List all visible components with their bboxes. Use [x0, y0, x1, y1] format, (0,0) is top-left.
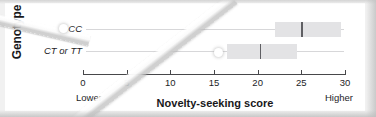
x-axis-tick-30 [345, 70, 346, 75]
scan-edge-shadow-top [0, 0, 376, 4]
x-axis-tick-label-5: 5 [114, 77, 140, 88]
x-axis-anchor-higher: Higher [325, 92, 353, 103]
x-axis-tick-label-10: 10 [157, 77, 183, 88]
x-axis-tick-label-20: 20 [245, 77, 271, 88]
x-axis-tick-20 [258, 70, 259, 75]
figure-screenshot: Genotype CC CT or TT 051015202530 Novelt… [0, 0, 376, 117]
scan-edge-shadow-bottom [0, 110, 376, 117]
x-axis-tick-label-30: 30 [332, 77, 358, 88]
x-axis-tick-5 [127, 70, 128, 75]
x-axis-anchor-lower: Lower [76, 92, 102, 103]
chart-plot-area: Genotype CC CT or TT 051015202530 Novelt… [0, 0, 376, 117]
x-axis-tick-label-0: 0 [70, 77, 96, 88]
scan-edge-shadow-right [366, 0, 376, 117]
y-axis-title: Genotype [10, 0, 24, 70]
interval-center-line-cc [301, 22, 302, 37]
x-axis-tick-label-15: 15 [201, 77, 227, 88]
x-axis-tick-10 [170, 70, 171, 75]
interval-bar-ct-or-tt [227, 44, 297, 59]
gridline-ct-or-tt [86, 51, 344, 52]
interval-bar-cc [275, 22, 341, 37]
category-label-ct-or-tt: CT or TT [8, 45, 82, 56]
category-label-cc: CC [8, 23, 82, 34]
x-axis-tick-25 [301, 70, 302, 75]
x-axis-tick-15 [214, 70, 215, 75]
x-axis-tick-label-25: 25 [288, 77, 314, 88]
x-axis-title: Novelty-seeking score [120, 97, 310, 109]
x-axis-tick-0 [83, 70, 84, 75]
interval-center-line-ct-or-tt [260, 44, 261, 59]
